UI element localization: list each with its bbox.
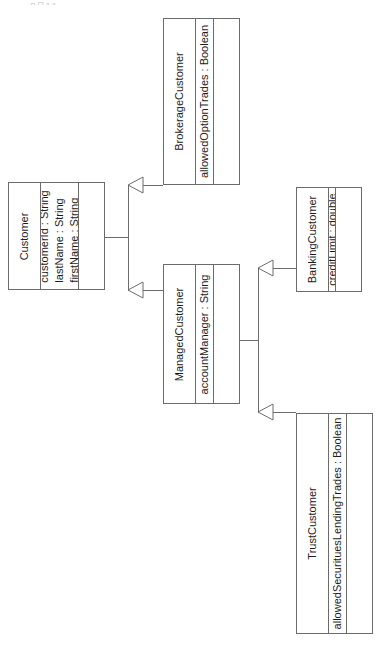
class-operations-compartment-brokerage-customer bbox=[213, 19, 239, 184]
cropped-header-fragment: —— —○ □ ▫ ▫ bbox=[2, 0, 122, 9]
class-name-compartment-trust-customer: TrustCustomer bbox=[297, 414, 328, 633]
generalization-arrowhead-brokerage bbox=[128, 177, 143, 193]
generalization-arrowhead-trust bbox=[258, 404, 273, 420]
attribute-customer-id: customerId : String bbox=[40, 190, 52, 282]
uml-class-banking-customer[interactable]: BankingCustomer creditLimit : double bbox=[296, 187, 362, 292]
attribute-allowed-option-trades: allowedOptionTrades : Boolean bbox=[197, 25, 212, 178]
class-attributes-compartment-customer: customerId : String lastName : String fi… bbox=[40, 183, 78, 289]
class-name-compartment-managed-customer: ManagedCustomer bbox=[164, 265, 195, 403]
class-attributes-compartment-brokerage-customer: allowedOptionTrades : Boolean bbox=[195, 19, 213, 184]
class-attributes-compartment-trust-customer: allowedSecurituesLendingTrades : Boolean bbox=[328, 414, 346, 633]
class-operations-compartment-trust-customer bbox=[346, 414, 372, 633]
generalization-arrowhead-managed bbox=[128, 282, 143, 298]
attribute-allowed-securities-lending-trades: allowedSecurituesLendingTrades : Boolean bbox=[330, 418, 345, 630]
attribute-account-manager: accountManager : String bbox=[197, 274, 212, 394]
class-name-compartment-customer: Customer bbox=[9, 183, 40, 289]
uml-class-trust-customer[interactable]: TrustCustomer allowedSecurituesLendingTr… bbox=[296, 413, 373, 634]
attribute-customer-firstname: firstName : String bbox=[67, 197, 78, 282]
attribute-credit-limit: creditLimit : double bbox=[328, 193, 335, 285]
diagram-canvas: —— —○ □ ▫ ▫ Customer customerId : String bbox=[0, 0, 392, 649]
class-attributes-compartment-managed-customer: accountManager : String bbox=[195, 265, 213, 403]
class-name-compartment-brokerage-customer: BrokerageCustomer bbox=[164, 19, 195, 184]
class-name-brokerage-customer: BrokerageCustomer bbox=[174, 52, 185, 150]
class-operations-compartment-customer bbox=[78, 183, 104, 289]
class-operations-compartment-banking-customer bbox=[335, 188, 361, 291]
class-name-customer: Customer bbox=[19, 212, 30, 260]
uml-class-customer[interactable]: Customer customerId : String lastName : … bbox=[8, 182, 105, 290]
generalization-arrowhead-banking bbox=[258, 260, 273, 276]
uml-class-managed-customer[interactable]: ManagedCustomer accountManager : String bbox=[163, 264, 240, 404]
attribute-customer-lastname: lastName : String bbox=[52, 198, 67, 282]
class-name-banking-customer: BankingCustomer bbox=[307, 196, 318, 283]
uml-class-brokerage-customer[interactable]: BrokerageCustomer allowedOptionTrades : … bbox=[163, 18, 240, 185]
class-name-compartment-banking-customer: BankingCustomer bbox=[297, 188, 328, 291]
class-attributes-compartment-banking-customer: creditLimit : double bbox=[328, 188, 335, 291]
class-name-trust-customer: TrustCustomer bbox=[307, 487, 318, 559]
class-name-managed-customer: ManagedCustomer bbox=[174, 287, 185, 381]
class-operations-compartment-managed-customer bbox=[213, 265, 239, 403]
